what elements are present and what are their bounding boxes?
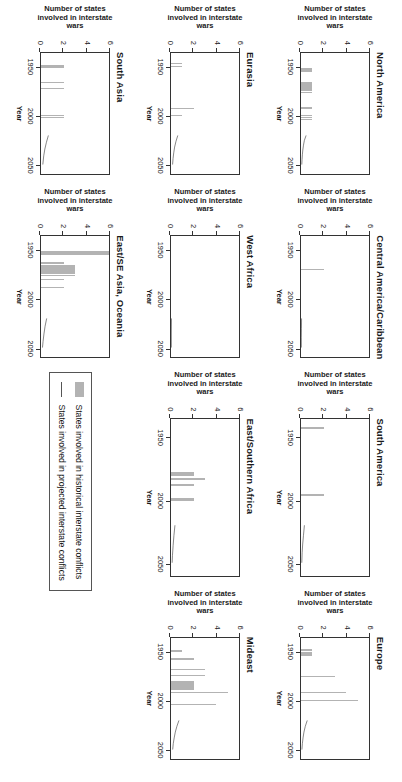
x-axis: 195020002050Year	[295, 637, 300, 760]
panel-title: South America	[375, 418, 386, 486]
x-tick-label: 2050	[286, 340, 295, 357]
x-tick	[36, 67, 40, 68]
history-bar	[301, 676, 335, 677]
y-axis: 0246	[300, 632, 370, 637]
y-tick	[62, 48, 63, 52]
history-bar	[301, 119, 312, 120]
panel-title: Mideast	[245, 637, 256, 673]
x-tick-label: 2050	[26, 340, 35, 357]
y-tick	[322, 48, 323, 52]
y-tick-label: 2	[189, 41, 198, 45]
x-axis-title: Year	[145, 418, 154, 576]
y-tick-label: 2	[189, 626, 198, 630]
legend-box: States involved in historical interstate…	[50, 372, 93, 590]
x-tick	[296, 67, 300, 68]
y-tick	[369, 633, 370, 637]
x-tick-label: 2000	[286, 291, 295, 308]
x-tick-label: 2050	[286, 742, 295, 759]
rotated-figure: North America0246Number of states involv…	[0, 0, 402, 782]
panel-title: North America	[375, 52, 386, 118]
chart-panel: Eurasia0246Number of states involved in …	[136, 6, 266, 189]
y-axis: 0246	[170, 47, 240, 52]
y-tick	[346, 48, 347, 52]
x-tick	[296, 437, 300, 438]
plot-frame	[170, 418, 240, 576]
y-tick-label: 0	[166, 41, 175, 45]
y-tick-label: 0	[296, 407, 305, 411]
x-tick	[166, 701, 170, 702]
legend-item[interactable]: States involved in projected interstate …	[58, 382, 68, 580]
history-bar	[301, 70, 312, 71]
projection-line	[171, 236, 239, 357]
chart-panel: Mideast0246Number of states involved in …	[136, 591, 266, 774]
x-axis-title: Year	[15, 235, 24, 358]
y-tick-label: 0	[36, 224, 45, 228]
y-tick-label: 6	[366, 626, 375, 630]
history-bar	[301, 427, 324, 429]
y-axis-title: Number of states involved in interstate …	[32, 188, 118, 214]
y-tick	[346, 414, 347, 418]
projection-line	[171, 638, 239, 759]
y-tick-label: 2	[319, 407, 328, 411]
y-tick-label: 6	[106, 224, 115, 228]
y-tick	[86, 48, 87, 52]
y-axis-title: Number of states involved in interstate …	[292, 590, 378, 616]
y-tick-label: 2	[189, 407, 198, 411]
y-tick-label: 6	[236, 626, 245, 630]
panel-title: Eurasia	[245, 52, 256, 87]
projection-line	[301, 236, 369, 357]
bar-swatch-icon	[75, 382, 84, 397]
y-axis: 0246	[300, 230, 370, 235]
x-tick-label: 1950	[156, 643, 165, 660]
legend-item[interactable]: States involved in historical interstate…	[75, 382, 85, 580]
panel-grid: North America0246Number of states involv…	[0, 0, 402, 782]
x-tick	[296, 652, 300, 653]
y-tick	[239, 633, 240, 637]
plot-area: 0246Number of states involved in interst…	[170, 418, 240, 576]
x-axis: 195020002050Year	[165, 637, 170, 760]
history-bar	[41, 67, 64, 68]
y-tick-label: 6	[366, 407, 375, 411]
y-axis-title: Number of states involved in interstate …	[32, 5, 118, 31]
plot-area: 0246Number of states involved in interst…	[170, 235, 240, 358]
history-bar	[171, 704, 216, 705]
y-tick	[86, 231, 87, 235]
history-bar	[301, 269, 324, 270]
x-tick-label: 2000	[156, 492, 165, 509]
y-axis-title: Number of states involved in interstate …	[292, 5, 378, 31]
history-bar	[171, 692, 228, 693]
history-bar	[301, 649, 312, 650]
y-tick-label: 0	[296, 626, 305, 630]
y-tick	[216, 633, 217, 637]
y-axis-title: Number of states involved in interstate …	[162, 590, 248, 616]
x-tick-label: 1950	[26, 58, 35, 75]
history-bar	[41, 117, 64, 118]
y-tick-label: 0	[166, 626, 175, 630]
y-tick-label: 0	[296, 224, 305, 228]
y-axis-title: Number of states involved in interstate …	[162, 372, 248, 398]
plot-frame	[300, 52, 370, 175]
history-bar	[41, 254, 109, 255]
plot-frame	[300, 418, 370, 576]
x-tick	[36, 165, 40, 166]
projection-line	[301, 419, 369, 575]
x-tick-label: 2000	[26, 108, 35, 125]
y-axis-title: Number of states involved in interstate …	[292, 188, 378, 214]
history-bar	[171, 650, 182, 651]
history-bar	[301, 92, 312, 93]
x-axis-title: Year	[275, 418, 284, 576]
plot-frame	[170, 637, 240, 760]
y-tick	[369, 231, 370, 235]
y-axis: 0246	[300, 47, 370, 52]
plot-frame	[170, 52, 240, 175]
y-tick	[322, 231, 323, 235]
x-axis: 195020002050Year	[165, 235, 170, 358]
history-bar	[171, 484, 194, 486]
y-tick	[192, 633, 193, 637]
x-tick	[166, 750, 170, 751]
x-tick-label: 2050	[156, 340, 165, 357]
history-bar	[41, 82, 64, 83]
history-bar	[171, 675, 205, 676]
y-tick-label: 4	[82, 224, 91, 228]
x-tick-label: 2000	[286, 492, 295, 509]
